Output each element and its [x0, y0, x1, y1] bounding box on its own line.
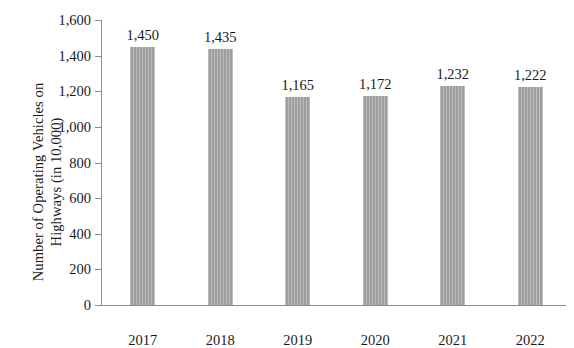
bar	[440, 86, 465, 305]
bar	[208, 49, 233, 305]
x-axis-tick-label: 2020	[335, 333, 415, 348]
x-axis-tick-label: 2022	[490, 333, 570, 348]
plot-area: 02004006008001,0001,2001,4001,600 1,4501…	[101, 20, 566, 305]
bar-value-label: 1,165	[258, 78, 338, 93]
x-axis-tick-label: 2019	[258, 333, 338, 348]
x-axis-line	[101, 305, 566, 306]
y-axis-tick-label: 0	[43, 298, 91, 313]
x-axis-tick-label: 2021	[413, 333, 493, 348]
bar	[130, 47, 155, 305]
bar	[363, 96, 388, 305]
y-axis-tick-label: 600	[43, 191, 91, 206]
y-axis-tick	[95, 56, 101, 57]
y-axis-tick	[95, 20, 101, 21]
y-axis-tick-label: 400	[43, 227, 91, 242]
y-axis-tick-label: 1,200	[43, 84, 91, 99]
bar-value-label: 1,172	[335, 77, 415, 92]
bar-value-label: 1,435	[180, 30, 260, 45]
x-axis-tick-label: 2017	[103, 333, 183, 348]
bar-value-label: 1,222	[490, 68, 570, 83]
x-axis-tick-label: 2018	[180, 333, 260, 348]
y-axis-tick	[95, 91, 101, 92]
y-axis-tick-label: 1,000	[43, 120, 91, 135]
y-axis-tick	[95, 234, 101, 235]
y-axis-title-line-1: Number of Operating Vehicles on	[30, 83, 48, 282]
y-axis-tick-label: 200	[43, 262, 91, 277]
bar-value-label: 1,232	[413, 67, 493, 82]
y-axis-tick	[95, 163, 101, 164]
bar-value-label: 1,450	[103, 28, 183, 43]
y-axis-tick	[95, 305, 101, 306]
y-axis-tick	[95, 198, 101, 199]
bar	[285, 97, 310, 305]
y-axis-tick-label: 1,600	[43, 13, 91, 28]
bar	[518, 87, 543, 305]
y-axis-title: Number of Operating Vehicles on Highways…	[25, 32, 71, 332]
y-axis-tick-label: 800	[43, 156, 91, 171]
y-axis-tick	[95, 269, 101, 270]
y-axis-line	[101, 20, 102, 305]
y-axis-tick-label: 1,400	[43, 49, 91, 64]
y-axis-tick	[95, 127, 101, 128]
